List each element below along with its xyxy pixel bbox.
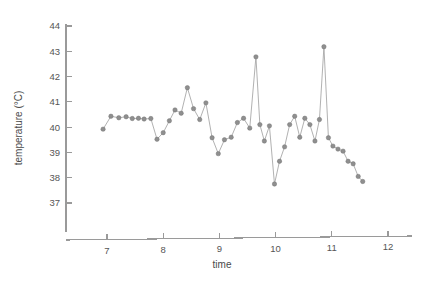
data-point: [101, 127, 105, 131]
x-tick-label: 9: [217, 243, 222, 254]
data-point: [317, 117, 321, 121]
y-tick-label: 43: [49, 46, 60, 57]
data-point: [191, 106, 195, 110]
data-point: [248, 126, 252, 130]
data-point: [241, 116, 245, 120]
data-point: [235, 120, 239, 124]
data-point: [308, 122, 312, 126]
temperature-vs-time-line-chart: 3738394041424344 temperature (°C) 789101…: [0, 0, 430, 286]
data-point: [204, 101, 208, 105]
data-point: [155, 137, 159, 141]
data-point: [326, 136, 330, 140]
data-point: [210, 136, 214, 140]
data-point: [222, 138, 226, 142]
x-axis-line: [66, 236, 412, 240]
data-point: [361, 179, 365, 183]
data-point: [179, 111, 183, 115]
data-point: [351, 162, 355, 166]
data-series-temperature: [101, 45, 365, 187]
y-axis-ticks: 3738394041424344: [49, 20, 71, 208]
x-tick-label: 10: [270, 243, 281, 254]
data-point: [272, 182, 276, 186]
x-tick-label: 8: [161, 244, 166, 255]
y-tick-label: 42: [49, 71, 60, 82]
y-tick-label: 44: [49, 20, 60, 31]
x-axis: 789101112 time: [66, 231, 412, 270]
x-axis-title: time: [213, 259, 232, 270]
y-tick-label: 37: [49, 197, 60, 208]
data-point: [341, 149, 345, 153]
data-point: [262, 139, 266, 143]
data-point: [303, 116, 307, 120]
data-point: [130, 116, 134, 120]
data-point: [313, 139, 317, 143]
data-point: [254, 55, 258, 59]
chart-figure: 3738394041424344 temperature (°C) 789101…: [0, 0, 430, 286]
data-point: [267, 124, 271, 128]
x-tick-label: 12: [383, 241, 394, 252]
data-point: [258, 122, 262, 126]
data-point: [167, 119, 171, 123]
x-tick-label: 11: [327, 242, 337, 253]
data-point: [173, 108, 177, 112]
data-point: [185, 85, 189, 89]
x-tick-label: 7: [104, 245, 109, 256]
y-tick-label: 38: [49, 172, 60, 183]
data-point: [149, 116, 153, 120]
data-point: [142, 117, 146, 121]
data-point: [282, 145, 286, 149]
y-tick-label: 39: [49, 147, 60, 158]
x-axis-ticks: 789101112: [104, 231, 393, 256]
series-line: [103, 47, 363, 184]
y-axis: 3738394041424344 temperature (°C): [13, 20, 72, 232]
data-point: [117, 116, 121, 120]
y-tick-label: 41: [49, 96, 60, 107]
data-point: [336, 147, 340, 151]
data-point: [298, 135, 302, 139]
data-point: [331, 144, 335, 148]
data-point: [346, 159, 350, 163]
data-point: [277, 159, 281, 163]
data-point: [293, 114, 297, 118]
data-point: [216, 151, 220, 155]
data-point: [124, 115, 128, 119]
data-point: [322, 45, 326, 49]
data-point: [229, 135, 233, 139]
data-point: [109, 114, 113, 118]
data-point: [161, 130, 165, 134]
data-point: [356, 174, 360, 178]
data-point: [198, 117, 202, 121]
data-point: [136, 116, 140, 120]
y-tick-label: 40: [49, 122, 60, 133]
data-point: [287, 122, 291, 126]
y-axis-title: temperature (°C): [13, 91, 24, 166]
